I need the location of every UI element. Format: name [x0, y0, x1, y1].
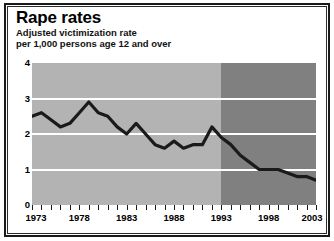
x-tickmark-1988: [174, 205, 175, 210]
y-tick-label-4: 4: [25, 58, 30, 68]
x-tickmark-2001: [297, 205, 298, 210]
series-line-chart: [32, 63, 316, 205]
x-tickmark-1976: [60, 205, 61, 210]
x-tickmark-1997: [259, 205, 260, 210]
x-tickmark-1981: [108, 205, 109, 210]
series-polyline-rape-rate: [32, 102, 316, 180]
x-tickmark-1999: [278, 205, 279, 210]
x-tickmark-1980: [98, 205, 99, 210]
x-tick-label-2003: 2003: [301, 212, 322, 223]
x-tickmark-1979: [89, 205, 90, 210]
x-tickmark-1985: [146, 205, 147, 210]
x-tickmark-1992: [212, 205, 213, 210]
x-tickmark-1991: [202, 205, 203, 210]
y-tick-label-2: 2: [25, 129, 30, 139]
x-tickmark-1993: [221, 205, 222, 210]
x-tickmark-1973: [32, 205, 33, 210]
x-tickmark-1974: [41, 205, 42, 210]
x-tick-label-1973: 1973: [25, 212, 46, 223]
plot-wrapper: 01234 1973197819831988199319982003: [0, 0, 334, 241]
x-tickmark-1982: [117, 205, 118, 210]
x-tickmark-1995: [240, 205, 241, 210]
x-tickmark-1986: [155, 205, 156, 210]
x-tickmark-2002: [307, 205, 308, 210]
x-tickmark-2003: [316, 205, 317, 210]
figure-root: Rape rates Adjusted victimization rate p…: [0, 0, 334, 241]
x-tick-label-1988: 1988: [163, 212, 184, 223]
y-tick-label-0: 0: [25, 200, 30, 210]
x-tickmark-1994: [231, 205, 232, 210]
x-tickmark-1990: [193, 205, 194, 210]
x-tickmark-1987: [165, 205, 166, 210]
x-axis: 1973197819831988199319982003: [32, 212, 316, 226]
y-tick-label-3: 3: [25, 94, 30, 104]
x-tick-label-1993: 1993: [211, 212, 232, 223]
x-tickmark-1983: [127, 205, 128, 210]
x-tickmark-1975: [51, 205, 52, 210]
x-tick-label-1978: 1978: [69, 212, 90, 223]
y-tick-label-1: 1: [25, 165, 30, 175]
y-axis: 01234: [14, 56, 30, 212]
x-tickmark-1996: [250, 205, 251, 210]
x-tick-label-1983: 1983: [116, 212, 137, 223]
x-tickmark-1978: [79, 205, 80, 210]
x-tickmark-1984: [136, 205, 137, 210]
x-tickmark-2000: [288, 205, 289, 210]
x-tickmark-1977: [70, 205, 71, 210]
x-tickmark-1998: [269, 205, 270, 210]
x-tickmark-1989: [183, 205, 184, 210]
x-tick-label-1998: 1998: [258, 212, 279, 223]
plot-area: [32, 63, 316, 205]
x-axis-tick-rail: [32, 205, 316, 211]
